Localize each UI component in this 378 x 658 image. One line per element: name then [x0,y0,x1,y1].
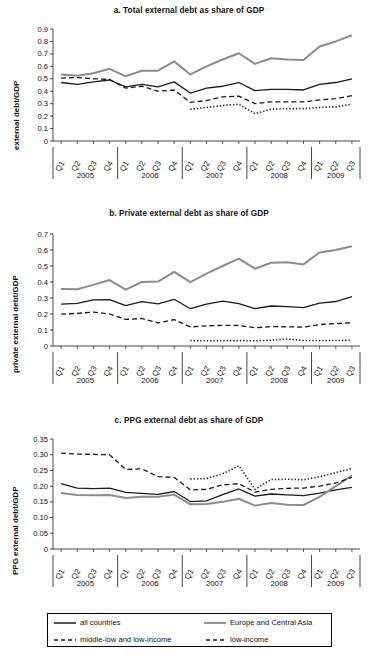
x-tick-label-quarter: Q1 [118,160,131,174]
x-tick-label-quarter: Q4 [296,364,309,378]
panel-c-svg: 00.050.100.150.200.250.300.35Q1Q2Q3Q4Q1Q… [0,427,378,607]
x-axis-year-label: 2009 [327,579,344,588]
y-tick-label: 0.1 [37,124,48,133]
legend-label-middle-low-and-low-income: middle-low and low-income [80,635,172,644]
series-line-low-income [190,104,352,113]
series-line-europe-and-central-asia [61,246,352,289]
y-tick-label: 0.30 [33,450,48,459]
x-tick-label-quarter: Q4 [296,567,309,581]
y-tick-label: 0.35 [33,435,48,444]
legend: all countries Europe and Central Asia mi… [47,613,332,647]
y-tick-label: 0.2 [37,310,48,319]
x-tick-label-quarter: Q4 [102,364,115,378]
panel-a: a. Total external debt as share of GDP e… [0,0,378,205]
x-axis-year-label: 2005 [77,171,95,180]
x-tick-label-quarter: Q1 [183,568,196,582]
series-line-all-countries [61,484,352,502]
x-tick-label-quarter: Q1 [312,365,325,379]
panel-a-plot: 00.10.20.30.40.50.60.70.80.9Q1Q2Q3Q4Q1Q2… [0,17,378,207]
x-tick-label-quarter: Q4 [231,364,244,378]
panel-a-title: a. Total external debt as share of GDP [0,5,378,17]
y-tick-label: 0.20 [33,482,48,491]
legend-label-low-income: low-income [230,635,268,644]
x-tick-label-quarter: Q1 [247,568,260,582]
x-tick-label-quarter: Q3 [344,160,357,174]
y-tick-label: 0 [44,137,48,146]
y-tick-label: 0.7 [37,49,48,58]
y-tick-label: 0.5 [37,74,48,83]
y-tick-label: 0.4 [37,87,48,96]
legend-row-1: all countries Europe and Central Asia [48,614,331,631]
y-tick-label: 0 [44,342,48,351]
panel-c: c. PPG external debt as share of GDP PPG… [0,412,378,606]
x-tick-label-quarter: Q3 [344,365,357,379]
series-line-all-countries [61,297,352,309]
y-tick-label: 0.1 [37,326,48,335]
x-axis-year-label: 2008 [271,579,288,588]
series-line-low-income [190,466,352,490]
series-line-middle-low-and-low-income [61,312,352,328]
y-tick-label: 0.3 [37,294,48,303]
x-tick-label-quarter: Q4 [296,159,309,173]
x-tick-label-quarter: Q1 [312,568,325,582]
y-tick-label: 0.10 [33,513,48,522]
y-tick-label: 0.9 [37,25,48,34]
x-axis-year-label: 2007 [206,376,223,385]
x-axis-year-label: 2007 [206,171,223,180]
x-tick-label-quarter: Q4 [102,159,115,173]
x-tick-label-quarter: Q4 [166,159,179,173]
legend-item-low-income[interactable]: low-income [203,635,268,644]
x-tick-label-quarter: Q1 [183,160,196,174]
legend-item-middle-low-and-low-income[interactable]: middle-low and low-income [53,635,203,644]
x-axis-year-label: 2005 [77,376,95,385]
x-tick-label-quarter: Q1 [247,365,260,379]
x-tick-label-quarter: Q4 [231,159,244,173]
y-tick-label: 0.4 [37,278,48,287]
x-tick-label-quarter: Q4 [166,567,179,581]
x-axis-year-label: 2007 [206,579,223,588]
x-tick-label-quarter: Q4 [102,567,115,581]
y-tick-label: 0.6 [37,62,48,71]
panel-c-title: c. PPG external debt as share of GDP [0,415,378,427]
y-tick-label: 0.3 [37,99,48,108]
panel-c-plot: 00.050.100.150.200.250.300.35Q1Q2Q3Q4Q1Q… [0,427,378,607]
panel-b-svg: 00.10.20.30.40.50.60.7Q1Q2Q3Q4Q1Q2Q3Q4Q1… [0,220,378,412]
x-tick-label-quarter: Q1 [183,365,196,379]
legend-item-all-countries[interactable]: all countries [53,618,203,627]
series-line-middle-low-and-low-income [61,78,352,104]
y-tick-label: 0.8 [37,37,48,46]
y-tick-label: 0.15 [33,497,48,506]
x-axis-year-label: 2008 [271,171,288,180]
legend-label-all-countries: all countries [80,618,121,627]
legend-item-europe-central-asia[interactable]: Europe and Central Asia [203,618,312,627]
x-axis-year-label: 2009 [327,171,344,180]
legend-row-2: middle-low and low-income low-income [48,631,331,648]
y-tick-label: 0.7 [37,230,48,239]
y-tick-label: 0.05 [33,529,48,538]
series-line-low-income [190,339,352,341]
x-tick-label-quarter: Q4 [166,364,179,378]
x-axis-year-label: 2006 [141,579,158,588]
solid-gray-line-swatch [203,619,227,627]
y-tick-label: 0.25 [33,466,48,475]
y-tick-label: 0 [44,545,48,554]
dashed-black-line-swatch-2 [203,636,227,644]
legend-label-europe-central-asia: Europe and Central Asia [230,618,312,627]
x-tick-label-quarter: Q4 [231,567,244,581]
x-tick-label-quarter: Q1 [118,365,131,379]
x-axis-year-label: 2009 [327,376,344,385]
x-tick-label-quarter: Q1 [312,160,325,174]
panel-b-plot: 00.10.20.30.40.50.60.7Q1Q2Q3Q4Q1Q2Q3Q4Q1… [0,220,378,412]
y-tick-label: 0.5 [37,262,48,271]
x-axis-year-label: 2008 [271,376,288,385]
x-axis-year-label: 2006 [141,171,158,180]
x-axis-year-label: 2005 [77,579,95,588]
x-tick-label-quarter: Q1 [53,160,66,174]
figure-root: a. Total external debt as share of GDP e… [0,0,378,658]
x-tick-label-quarter: Q1 [247,160,260,174]
y-tick-label: 0.6 [37,246,48,255]
solid-black-line-swatch [53,619,77,627]
x-tick-label-quarter: Q1 [53,568,66,582]
x-tick-label-quarter: Q1 [53,365,66,379]
series-line-middle-low-and-low-income [61,453,352,492]
